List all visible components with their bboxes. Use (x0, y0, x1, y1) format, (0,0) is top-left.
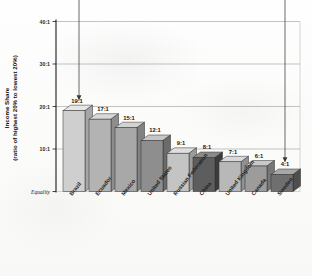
bar-front-face (63, 111, 85, 192)
bar-value-label: 15:1 (123, 115, 135, 121)
bar-brazil: 19:1 (63, 98, 93, 192)
chart-canvas: 40:1 30:1 20:1 10:1 Equality Income Shar… (0, 0, 312, 276)
bar-value-label: 9:1 (177, 140, 186, 146)
bar-value-label: 19:1 (71, 98, 83, 104)
income-share-bar-chart: 40:1 30:1 20:1 10:1 Equality Income Shar… (0, 0, 312, 276)
y-axis-title-line1: Income Share (3, 87, 10, 128)
bar-value-label: 4:1 (281, 161, 290, 167)
y-tick-label-10: 10:1 (40, 146, 50, 152)
y-axis: 40:1 30:1 20:1 10:1 Equality (30, 19, 56, 195)
lowest-ratio-pointer (283, 0, 288, 163)
equality-baseline-label: Equality (30, 189, 50, 195)
bar-value-label: 8:1 (203, 144, 212, 150)
y-axis-title: Income Share (ratio of highest 20% to lo… (3, 55, 17, 161)
bar-value-label: 12:1 (149, 127, 161, 133)
y-axis-title-line2: (ratio of highest 20% to lowest 20%) (11, 55, 18, 161)
y-tick-label-20: 20:1 (40, 104, 50, 110)
bar-value-label: 7:1 (229, 149, 238, 155)
bar-value-label: 6:1 (255, 153, 264, 159)
y-tick-label-40: 40:1 (40, 19, 50, 25)
y-tick-label-30: 30:1 (40, 61, 50, 67)
highest-ratio-pointer (77, 0, 82, 101)
bar-value-label: 17:1 (97, 106, 109, 112)
bar-ecuador: 17:1 (89, 106, 119, 192)
